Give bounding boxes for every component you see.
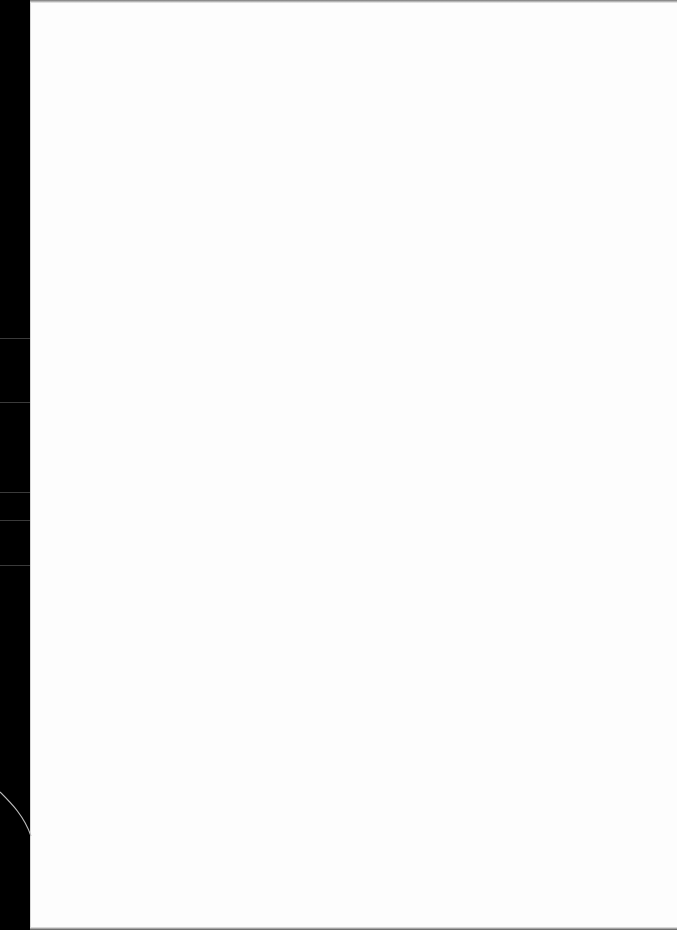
background-line bbox=[0, 565, 30, 566]
background-line bbox=[0, 402, 30, 403]
blank-paper-page bbox=[30, 2, 677, 928]
page-top-edge bbox=[30, 0, 677, 3]
page-content bbox=[91, 42, 637, 888]
background-line bbox=[0, 338, 30, 339]
background-line bbox=[0, 492, 30, 493]
background-line bbox=[0, 520, 30, 521]
cable-curve-icon bbox=[0, 780, 34, 840]
